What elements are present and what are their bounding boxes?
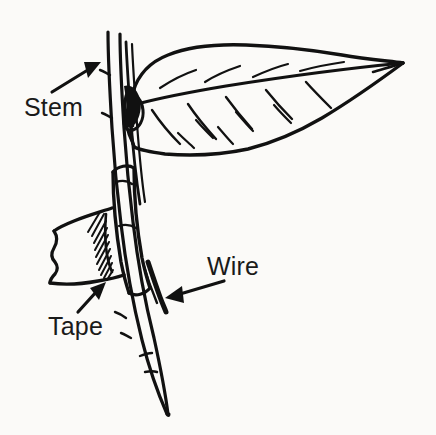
stem-tip	[167, 414, 169, 416]
stem-node-4	[121, 333, 131, 338]
arrow-stem	[52, 62, 101, 92]
leaf-vein-dash-5	[218, 127, 233, 144]
arrow-wire-head	[165, 286, 184, 303]
stem-node-3	[115, 312, 126, 318]
arrow-wire-shaft	[180, 281, 224, 294]
label-wire: Wire	[207, 254, 259, 279]
stem-node-6	[145, 371, 157, 372]
leaf-vein-dash-1	[196, 120, 213, 138]
leaf-wire-tape-diagram	[0, 0, 436, 435]
leaf-vein-dash-4	[178, 133, 194, 148]
wire-wrap-mass	[124, 85, 141, 127]
label-stem: Stem	[24, 95, 83, 120]
tape-crease-1	[116, 181, 132, 184]
label-tape: Tape	[48, 314, 103, 339]
tape-flap-left-edge	[50, 231, 57, 283]
tape-hatching	[88, 212, 113, 280]
leaf-vein-lower-1	[152, 110, 180, 144]
arrow-wire	[165, 281, 224, 303]
leaf-group	[124, 45, 403, 155]
arrow-tape	[78, 282, 106, 312]
figure-root: Stem Tape Wire	[0, 0, 436, 435]
leaf-vein-upper-1	[160, 70, 196, 88]
arrow-tape-shaft	[78, 291, 97, 312]
leaf-vein-upper-3	[253, 64, 288, 77]
leaf-vein-lower-4	[266, 90, 292, 119]
tape-flap-bottom-edge	[50, 275, 124, 284]
leaf-vein-upper-2	[205, 66, 240, 82]
leaf-vein-dash-2	[236, 112, 253, 131]
arrow-stem-shaft	[52, 68, 91, 92]
leaf-lower-outline	[134, 63, 403, 155]
arrow-stem-head	[84, 62, 101, 78]
leaf-vein-lower-2	[188, 104, 216, 139]
leaf-vein-lower-5	[306, 82, 331, 108]
